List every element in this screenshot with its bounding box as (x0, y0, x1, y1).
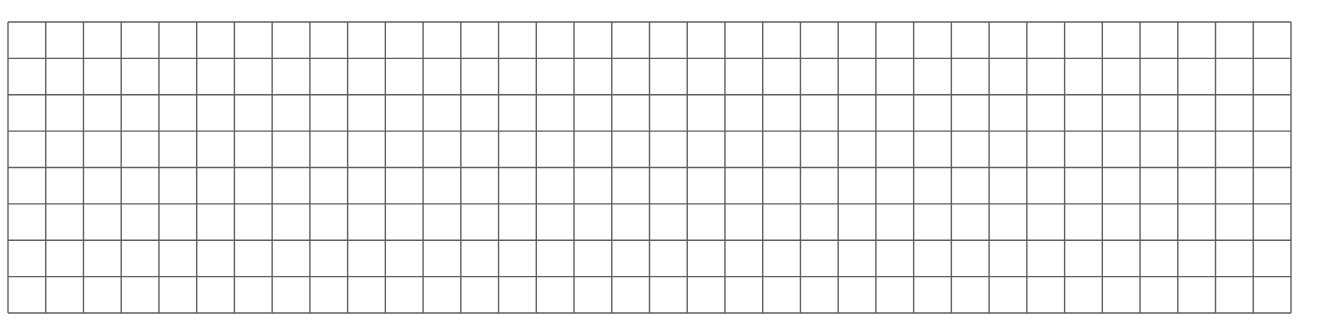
grid-cell (159, 277, 197, 313)
grid-cell (989, 277, 1027, 313)
grid-cell (348, 22, 386, 58)
grid-cell (310, 204, 348, 240)
grid-cell (121, 131, 159, 167)
grid-cell (1027, 204, 1065, 240)
grid-cell (461, 22, 499, 58)
grid-cell (310, 58, 348, 94)
grid-cell (1065, 240, 1103, 276)
grid-cell (574, 168, 612, 204)
grid-cell (687, 131, 725, 167)
grid-cell (83, 240, 121, 276)
grid-cell (763, 22, 801, 58)
grid-cell (951, 240, 989, 276)
grid-cell (8, 168, 46, 204)
grid-cell (725, 204, 763, 240)
grid-cell (83, 131, 121, 167)
grid-cell (121, 277, 159, 313)
grid-cell (1065, 204, 1103, 240)
grid-cell (8, 277, 46, 313)
grid-cell (234, 95, 272, 131)
grid-cell (385, 277, 423, 313)
grid-cell (1178, 204, 1216, 240)
grid-cell (8, 131, 46, 167)
grid-cell (800, 168, 838, 204)
grid-cell (1027, 168, 1065, 204)
grid-cell (914, 277, 952, 313)
grid-cell (876, 95, 914, 131)
grid-cell (612, 168, 650, 204)
grid-cell (1102, 131, 1140, 167)
grid-cell (536, 277, 574, 313)
grid-cell (914, 204, 952, 240)
grid-cell (1216, 240, 1254, 276)
grid-cell (951, 277, 989, 313)
grid-cell (763, 58, 801, 94)
grid-cell (1178, 95, 1216, 131)
grid-cell (423, 168, 461, 204)
grid-cell (197, 22, 235, 58)
grid-cell (159, 240, 197, 276)
grid-cell (83, 277, 121, 313)
grid-cell (1178, 131, 1216, 167)
grid-cell (800, 131, 838, 167)
empty-grid (7, 21, 1292, 314)
grid-cell (1065, 277, 1103, 313)
grid-cell (876, 277, 914, 313)
grid-cell (46, 131, 84, 167)
grid-cell (272, 204, 310, 240)
grid-cell (838, 22, 876, 58)
grid-cell (159, 22, 197, 58)
grid-cell (838, 204, 876, 240)
grid-cell (612, 204, 650, 240)
grid-cell (348, 95, 386, 131)
grid-cell (499, 277, 537, 313)
grid-cell (800, 204, 838, 240)
grid-cell (1027, 22, 1065, 58)
grid-cell (838, 131, 876, 167)
grid-cell (1253, 277, 1291, 313)
grid-cell (1102, 22, 1140, 58)
grid-cell (725, 58, 763, 94)
grid-cell (159, 168, 197, 204)
grid-cell (650, 58, 688, 94)
grid-cell (951, 58, 989, 94)
grid-cell (121, 204, 159, 240)
grid-cell (1216, 58, 1254, 94)
grid-cell (574, 240, 612, 276)
grid-cell (989, 240, 1027, 276)
grid-cell (763, 277, 801, 313)
grid-cell (763, 168, 801, 204)
grid-cell (234, 131, 272, 167)
grid-cell (914, 240, 952, 276)
grid-cell (1065, 95, 1103, 131)
grid-cell (234, 168, 272, 204)
grid-cell (1102, 204, 1140, 240)
grid-cell (423, 240, 461, 276)
grid-cell (650, 240, 688, 276)
grid-cell (989, 168, 1027, 204)
grid-cell (499, 22, 537, 58)
grid-cell (159, 131, 197, 167)
grid-cell (612, 240, 650, 276)
grid-cell (348, 168, 386, 204)
grid-cell (1102, 58, 1140, 94)
grid-cell (121, 168, 159, 204)
grid-cell (650, 168, 688, 204)
grid-cell (1065, 22, 1103, 58)
grid-cell (348, 131, 386, 167)
grid-cell (536, 95, 574, 131)
grid-cell (348, 240, 386, 276)
grid-cell (536, 58, 574, 94)
grid-cell (1253, 240, 1291, 276)
grid-cell (914, 131, 952, 167)
grid-cell (838, 168, 876, 204)
grid-cell (574, 131, 612, 167)
grid-cell (159, 95, 197, 131)
grid-cell (536, 204, 574, 240)
grid-cell (234, 58, 272, 94)
grid-cell (687, 22, 725, 58)
grid-cell (1027, 58, 1065, 94)
grid-cell (1027, 277, 1065, 313)
grid-cell (423, 204, 461, 240)
grid-cell (310, 131, 348, 167)
